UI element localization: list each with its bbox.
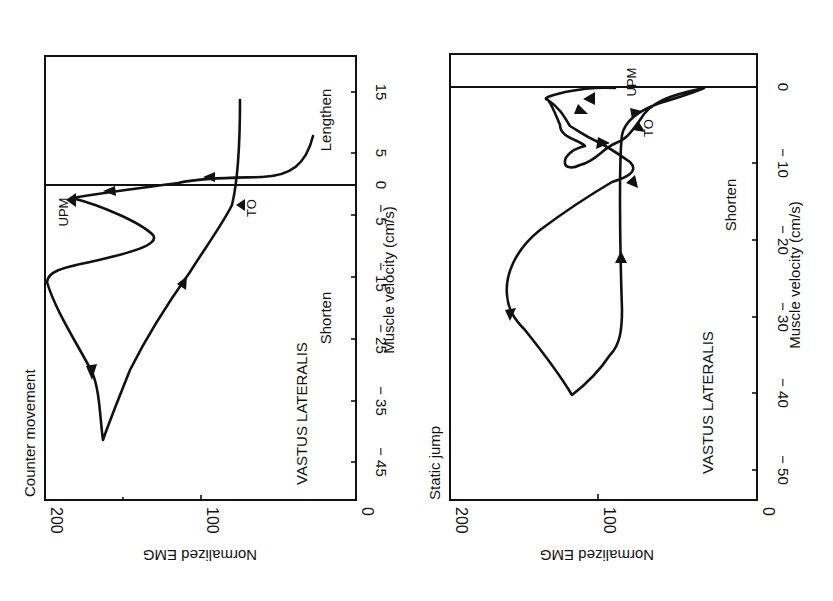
svg-text:0: 0 xyxy=(775,83,792,91)
panel-title: Static jump xyxy=(426,426,443,500)
x-axis-label: Muscle velocity (cm/s) xyxy=(380,206,397,354)
svg-text:− 40: − 40 xyxy=(775,378,792,408)
region-label-shorten: Shorten xyxy=(317,292,334,345)
svg-text:100: 100 xyxy=(204,507,221,534)
svg-text:− 45: − 45 xyxy=(373,447,390,477)
svg-text:− 50: − 50 xyxy=(775,455,792,485)
emg-velocity-loop xyxy=(507,88,704,395)
x-axis-label: Muscle velocity (cm/s) xyxy=(786,201,803,349)
y-axis-label: Normalized EMG xyxy=(540,547,654,564)
event-label-upm: UPM xyxy=(624,68,639,97)
emg-velocity-loop xyxy=(47,100,313,440)
svg-text:0: 0 xyxy=(373,181,390,189)
event-label-to: TO xyxy=(641,119,656,137)
y-axis-tick-labels: 200 100 0 xyxy=(48,507,376,534)
direction-arrow xyxy=(574,104,588,114)
y-axis-label: Normalized EMG xyxy=(143,547,257,564)
y-axis-tick-labels: 200 100 0 xyxy=(453,507,777,534)
panel-counter-movement: 15 5 0 − 5 − 15 − 25 − 35 − 45 Muscle ve… xyxy=(21,56,397,564)
muscle-label: VASTUS LATERALIS xyxy=(699,331,716,474)
svg-text:15: 15 xyxy=(373,84,390,101)
to-marker xyxy=(236,199,245,211)
region-label-lengthen: Lengthen xyxy=(317,89,334,152)
svg-text:100: 100 xyxy=(601,507,618,534)
event-label-to: TO xyxy=(244,199,259,217)
direction-arrow xyxy=(103,186,116,196)
svg-text:− 35: − 35 xyxy=(373,386,390,416)
panel-title: Counter movement xyxy=(21,369,38,497)
region-label-shorten: Shorten xyxy=(722,179,739,232)
svg-text:5: 5 xyxy=(373,149,390,157)
figure-canvas: 15 5 0 − 5 − 15 − 25 − 35 − 45 Muscle ve… xyxy=(0,0,833,601)
panel-static-jump: 0 − 10 − 20 − 30 − 40 − 50 Muscle veloci… xyxy=(426,54,803,564)
svg-text:200: 200 xyxy=(453,507,470,534)
svg-text:200: 200 xyxy=(48,507,65,534)
direction-arrow xyxy=(583,92,595,105)
svg-text:0: 0 xyxy=(760,507,777,516)
svg-text:− 10: − 10 xyxy=(775,148,792,178)
direction-arrow xyxy=(615,251,627,263)
svg-text:0: 0 xyxy=(359,507,376,516)
muscle-label: VASTUS LATERALIS xyxy=(293,342,310,485)
